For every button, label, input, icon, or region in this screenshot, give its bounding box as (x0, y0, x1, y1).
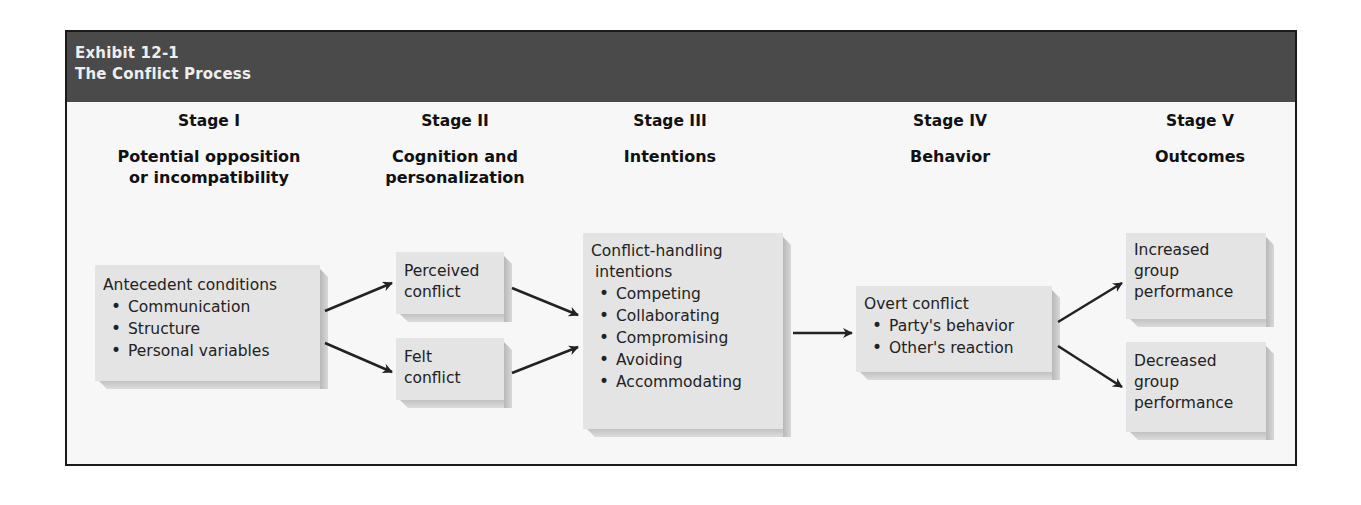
list-item: Avoiding (599, 349, 775, 371)
perceived-conflict-box: Perceived conflict (396, 252, 504, 314)
box-line: Decreased (1134, 351, 1258, 372)
box-title: Antecedent conditions (103, 275, 312, 296)
list-item: Personal variables (111, 340, 312, 362)
box-line: conflict (404, 282, 496, 303)
stage-4-heading: Stage IV Behavior (880, 112, 1020, 167)
list-item: Communication (111, 296, 312, 318)
intentions-list: Competing Collaborating Compromising Avo… (591, 283, 775, 393)
stage-number: Stage I (78, 112, 340, 130)
exhibit-title: The Conflict Process (75, 65, 251, 83)
box-title: Overt conflict (864, 294, 1044, 315)
list-item: Compromising (599, 327, 775, 349)
antecedent-conditions-box: Antecedent conditions Communication Stru… (95, 265, 320, 381)
list-item: Collaborating (599, 305, 775, 327)
stage-2-heading: Stage II Cognition and personalization (360, 112, 550, 188)
overt-list: Party's behavior Other's reaction (864, 315, 1044, 359)
stage-name-line1: Potential opposition (78, 146, 340, 167)
overt-conflict-box: Overt conflict Party's behavior Other's … (856, 286, 1052, 372)
stage-name-line2: personalization (360, 167, 550, 188)
stage-name-line1: Intentions (580, 146, 760, 167)
box-line: Perceived (404, 261, 496, 282)
stage-5-heading: Stage V Outcomes (1130, 112, 1270, 167)
box-line: performance (1134, 393, 1258, 414)
stage-number: Stage II (360, 112, 550, 130)
box-line: group (1134, 261, 1258, 282)
stage-3-heading: Stage III Intentions (580, 112, 760, 167)
stage-1-heading: Stage I Potential opposition or incompat… (78, 112, 340, 188)
stage-number: Stage IV (880, 112, 1020, 130)
increased-performance-box: Increased group performance (1126, 233, 1266, 319)
list-item: Competing (599, 283, 775, 305)
stage-number: Stage III (580, 112, 760, 130)
box-line: intentions (591, 262, 775, 283)
box-line: Increased (1134, 240, 1258, 261)
box-line: performance (1134, 282, 1258, 303)
box-line: group (1134, 372, 1258, 393)
stage-name-line1: Behavior (880, 146, 1020, 167)
stage-name-line1: Outcomes (1130, 146, 1270, 167)
antecedent-list: Communication Structure Personal variabl… (103, 296, 312, 362)
list-item: Other's reaction (872, 337, 1044, 359)
decreased-performance-box: Decreased group performance (1126, 342, 1266, 432)
box-line: Felt (404, 347, 496, 368)
felt-conflict-box: Felt conflict (396, 338, 504, 400)
box-line: Conflict-handling (591, 241, 775, 262)
intentions-box: Conflict-handling intentions Competing C… (583, 233, 783, 429)
stage-name-line2: or incompatibility (78, 167, 340, 188)
exhibit-number: Exhibit 12-1 (75, 44, 179, 62)
list-item: Accommodating (599, 371, 775, 393)
list-item: Party's behavior (872, 315, 1044, 337)
box-line: conflict (404, 368, 496, 389)
stage-number: Stage V (1130, 112, 1270, 130)
stage-name-line1: Cognition and (360, 146, 550, 167)
exhibit-header: Exhibit 12-1 The Conflict Process (67, 32, 1295, 102)
list-item: Structure (111, 318, 312, 340)
